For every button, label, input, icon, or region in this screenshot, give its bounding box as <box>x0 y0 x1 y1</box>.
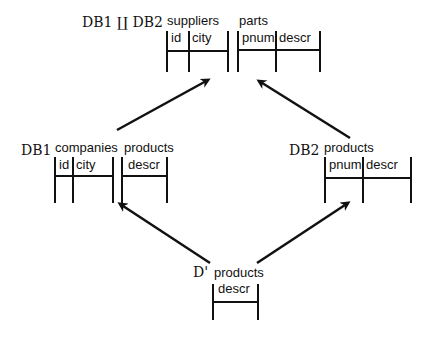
table-parts: parts pnum descr <box>238 13 320 72</box>
arrow-dprime-to-db1 <box>120 204 210 263</box>
table-name-companies: companies <box>55 140 118 155</box>
table-name-products: products <box>324 140 374 155</box>
table-suppliers: suppliers id city <box>167 13 228 72</box>
arrow-db1-to-merged <box>117 80 208 130</box>
arrow-db2-to-merged <box>259 81 350 138</box>
column-id: id <box>59 157 69 172</box>
db-label-merged: DB1 ∐ DB2 <box>82 14 163 30</box>
column-city: city <box>192 30 212 45</box>
column-descr: descr <box>218 281 250 296</box>
column-descr: descr <box>366 157 398 172</box>
table-products-db2: products pnum descr <box>324 140 411 203</box>
table-name-products: products <box>124 140 174 155</box>
column-descr: descr <box>128 157 160 172</box>
column-city: city <box>76 157 96 172</box>
table-products-db1: products descr <box>122 140 174 203</box>
table-name-parts: parts <box>239 13 268 28</box>
column-pnum: pnum <box>242 30 275 45</box>
arrow-dprime-to-db2 <box>257 203 348 263</box>
db-label-dprime: D' <box>193 264 208 280</box>
table-name-products: products <box>214 265 264 280</box>
column-pnum: pnum <box>329 157 362 172</box>
db-label-db2: DB2 <box>289 142 319 158</box>
node-db1: DB1 companies id city products descr <box>21 140 174 203</box>
node-db2: DB2 products pnum descr <box>289 140 411 203</box>
column-descr: descr <box>279 30 311 45</box>
node-dprime: D' products descr <box>193 264 264 320</box>
db-label-db1: DB1 <box>21 142 51 158</box>
table-products-dprime: products descr <box>213 265 264 320</box>
schema-diagram: DB1 ∐ DB2 suppliers id city parts pnum d… <box>0 0 433 339</box>
table-name-suppliers: suppliers <box>167 13 220 28</box>
node-merged: DB1 ∐ DB2 suppliers id city parts pnum d… <box>82 13 320 72</box>
table-companies: companies id city <box>55 140 118 203</box>
column-id: id <box>171 30 181 45</box>
